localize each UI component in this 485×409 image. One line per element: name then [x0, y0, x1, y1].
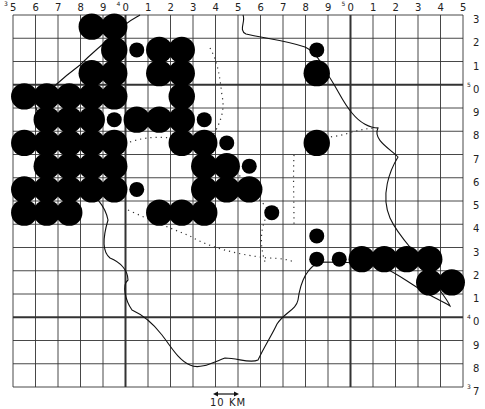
large-dot — [146, 106, 172, 132]
northing-label: 8 — [473, 363, 479, 374]
easting-label: 7 — [55, 2, 61, 13]
small-dot — [332, 252, 347, 267]
northing-label-prefix: 5 — [467, 81, 471, 88]
large-dot — [34, 153, 60, 179]
northing-label: 9 — [473, 107, 479, 118]
large-dot — [79, 13, 105, 39]
northing-label: 5 — [473, 200, 479, 211]
distribution-map: 536789041234567890512345 321059876543210… — [0, 0, 485, 409]
easting-label: 2 — [168, 2, 174, 13]
northing-label: 9 — [473, 340, 479, 351]
large-dot — [191, 176, 217, 202]
large-dot — [79, 153, 105, 179]
large-dot — [79, 106, 105, 132]
large-dot — [371, 246, 397, 272]
large-dot — [101, 37, 127, 63]
easting-label: 3 — [190, 2, 196, 13]
easting-label: 4 — [438, 2, 444, 13]
large-dot — [304, 130, 330, 156]
easting-label: 6 — [33, 2, 39, 13]
northing-label: 7 — [473, 386, 479, 397]
easting-label: 0 — [348, 2, 354, 13]
northing-label: 8 — [473, 130, 479, 141]
large-dot — [56, 199, 82, 225]
large-dot — [101, 176, 127, 202]
northing-label: 2 — [473, 270, 479, 281]
large-dot — [191, 199, 217, 225]
easting-label: 9 — [100, 2, 106, 13]
large-dot — [146, 60, 172, 86]
large-dot — [146, 199, 172, 225]
easting-label: 8 — [303, 2, 309, 13]
large-dot — [146, 37, 172, 63]
northing-label: 0 — [473, 316, 479, 327]
large-dot — [169, 130, 195, 156]
large-dot — [394, 246, 420, 272]
large-dot — [11, 199, 37, 225]
large-dot — [11, 176, 37, 202]
easting-label: 5 — [235, 2, 241, 13]
large-dot — [169, 60, 195, 86]
large-dot — [124, 106, 150, 132]
easting-label-prefix: 3 — [4, 0, 8, 7]
easting-label: 5 — [10, 2, 16, 13]
easting-label: 5 — [460, 2, 466, 13]
large-dot — [34, 130, 60, 156]
northing-label: 2 — [473, 37, 479, 48]
large-dot — [214, 176, 240, 202]
arrow-right-icon — [234, 392, 239, 397]
large-dot — [79, 130, 105, 156]
large-dot — [56, 106, 82, 132]
scale-bar-label: 10 KM — [210, 397, 246, 408]
easting-label: 0 — [123, 2, 129, 13]
northing-label: 0 — [473, 84, 479, 95]
easting-label: 6 — [258, 2, 264, 13]
large-dot — [304, 60, 330, 86]
large-dot — [439, 269, 465, 295]
small-dot — [197, 112, 212, 127]
northing-label: 4 — [473, 223, 479, 234]
large-dot — [169, 37, 195, 63]
large-dot — [214, 153, 240, 179]
northing-label-prefix: 3 — [467, 383, 471, 390]
northing-label: 3 — [473, 247, 479, 258]
easting-label: 8 — [78, 2, 84, 13]
scale-bar: 10 KM — [210, 392, 246, 409]
easting-label: 1 — [370, 2, 376, 13]
easting-label: 2 — [393, 2, 399, 13]
large-dot — [34, 176, 60, 202]
large-dot — [34, 199, 60, 225]
large-dot — [101, 153, 127, 179]
large-dot — [56, 130, 82, 156]
small-dot — [129, 182, 144, 197]
large-dot — [56, 153, 82, 179]
small-dot — [242, 159, 257, 174]
small-dot — [107, 112, 122, 127]
northing-label: 7 — [473, 154, 479, 165]
large-dot — [191, 153, 217, 179]
small-dot — [219, 135, 234, 150]
small-dot — [309, 252, 324, 267]
large-dot — [11, 83, 37, 109]
northing-label: 3 — [473, 14, 479, 25]
large-dot — [416, 269, 442, 295]
large-dot — [236, 176, 262, 202]
easting-label-prefix: 4 — [117, 0, 121, 7]
small-dot — [129, 42, 144, 57]
small-dot — [309, 42, 324, 57]
large-dot — [169, 83, 195, 109]
large-dot — [169, 199, 195, 225]
northing-label: 6 — [473, 177, 479, 188]
easting-label: 3 — [415, 2, 421, 13]
large-dot — [101, 60, 127, 86]
large-dot — [101, 83, 127, 109]
small-dot — [264, 205, 279, 220]
large-dot — [79, 176, 105, 202]
large-dot — [34, 83, 60, 109]
easting-labels: 536789041234567890512345 — [4, 0, 466, 13]
large-dot — [191, 130, 217, 156]
easting-label: 7 — [280, 2, 286, 13]
northing-label: 1 — [473, 293, 479, 304]
large-dot — [34, 106, 60, 132]
easting-label: 9 — [325, 2, 331, 13]
